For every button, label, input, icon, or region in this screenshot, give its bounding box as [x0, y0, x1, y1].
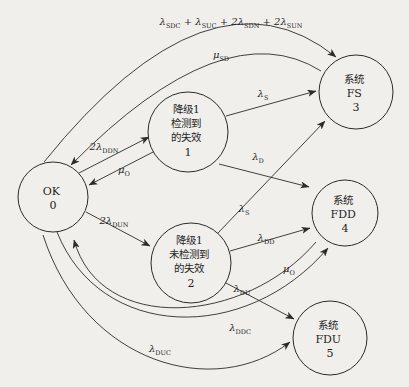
edge-s1-to-ok: μO: [89, 150, 157, 185]
state-node-degraded-detected: 降级1 检测到 的失效 1: [148, 92, 228, 172]
edge-s2-to-fs: λS: [218, 121, 325, 233]
svg-text:μO: μO: [118, 164, 130, 178]
edge-s2-to-fdu: λDU: [226, 283, 294, 319]
svg-text:λDD: λDD: [257, 232, 275, 246]
edge-s1-to-fdd: λD: [219, 151, 309, 187]
svg-text:μO: μO: [283, 263, 295, 277]
state-node-ok: OK 0: [18, 162, 88, 232]
state-node-system-fdd: 系统 FDD 4: [312, 180, 378, 246]
svg-text:2λDUN: 2λDUN: [98, 215, 128, 229]
edge-s2-to-fdd: λDD: [230, 228, 310, 251]
svg-text:λSDC + λSUC + 2λSDN + 2λSUN: λSDC + λSUC + 2λSDN + 2λSUN: [159, 16, 303, 30]
state-node-degraded-undetected: 降级1 未检测到 的失效 2: [151, 223, 231, 303]
svg-text:λS: λS: [238, 203, 250, 217]
svg-text:λDDC: λDDC: [228, 322, 251, 336]
diagram-canvas: λSDC + λSUC + 2λSDN + 2λSUN μSD 2λDDN μO…: [0, 0, 409, 387]
svg-text:λS: λS: [257, 88, 269, 102]
edge-s1-to-fs: λS: [226, 88, 316, 116]
svg-text:μSD: μSD: [213, 49, 229, 63]
svg-text:2λDDN: 2λDDN: [89, 141, 119, 155]
edge-ok-to-s2: 2λDUN: [86, 212, 150, 246]
figure-markov-diagram: λSDC + λSUC + 2λSDN + 2λSUN μSD 2λDDN μO…: [0, 0, 409, 387]
state-node-system-fdu: 系统 FDU 5: [293, 301, 367, 375]
state-node-system-fs: 系统 FS 3: [319, 55, 393, 129]
svg-text:λDUC: λDUC: [148, 343, 171, 357]
edge-ok-to-s1: 2λDDN: [79, 137, 149, 173]
svg-text:λD: λD: [251, 151, 264, 165]
